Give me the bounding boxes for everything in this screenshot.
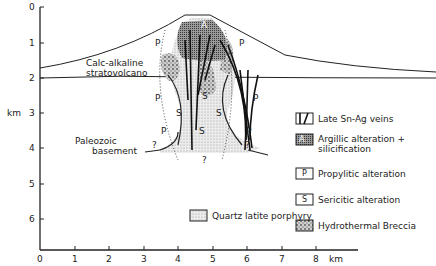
x-axis xyxy=(40,246,358,250)
y-axis-label: km xyxy=(7,108,21,118)
x-tick-4: 4 xyxy=(175,254,181,264)
x-tick-3: 3 xyxy=(141,254,147,264)
y-axis xyxy=(40,7,44,250)
propylitic-symbol: P xyxy=(239,38,244,48)
y-tick-1: 1 xyxy=(29,38,35,48)
x-tick-2: 2 xyxy=(106,254,112,264)
propylitic-symbol: P xyxy=(155,93,160,103)
sericitic-symbol: S xyxy=(216,108,222,118)
legend-propylitic-symbol: P xyxy=(302,169,307,179)
x-tick-1: 1 xyxy=(72,254,78,264)
legend-argillic-label-2: silicification xyxy=(318,144,371,154)
x-tick-7: 7 xyxy=(279,254,285,264)
legend-sericitic-label: Sericitic alteration xyxy=(318,195,400,205)
propylitic-symbol: P xyxy=(253,93,258,103)
x-tick-5: 5 xyxy=(210,254,216,264)
stratovolcano-label-1: Calc-alkaline xyxy=(86,58,143,68)
uncertain-mark: ? xyxy=(152,140,157,150)
argillic-symbol: A xyxy=(201,20,207,30)
uncertain-mark: ? xyxy=(245,140,250,150)
y-tick-6: 6 xyxy=(29,214,35,224)
propylitic-symbol: P xyxy=(246,126,251,136)
x-tick-0: 0 xyxy=(37,254,43,264)
sericitic-symbol: S xyxy=(199,126,205,136)
stratovolcano-label-2: stratovolcano xyxy=(86,68,147,78)
y-tick-2: 2 xyxy=(29,73,35,83)
legend-argillic-symbol: A xyxy=(299,135,304,145)
legend-sericitic-symbol: S xyxy=(302,195,307,205)
y-tick-3: 3 xyxy=(29,108,35,118)
legend-propylitic-label: Propylitic alteration xyxy=(318,169,406,179)
y-tick-0: 0 xyxy=(29,2,35,12)
propylitic-symbol: P xyxy=(161,126,166,136)
x-tick-8: 8 xyxy=(313,254,319,264)
x-axis-unit: km xyxy=(329,254,343,264)
legend-breccia-label: Hydrothermal Breccia xyxy=(318,221,416,231)
legend-porphyry-label: Quartz latite porphyry xyxy=(212,211,312,221)
y-tick-4: 4 xyxy=(29,143,35,153)
x-tick-6: 6 xyxy=(244,254,250,264)
sericitic-symbol: S xyxy=(202,91,208,101)
y-tick-5: 5 xyxy=(29,179,35,189)
uncertain-mark: ? xyxy=(202,155,207,165)
legend-veins-label: Late Sn-Ag veins xyxy=(318,114,393,124)
sericitic-symbol: S xyxy=(176,108,182,118)
propylitic-symbol: P xyxy=(155,38,160,48)
legend-argillic-label-1: Argillic alteration + xyxy=(318,134,405,144)
basement-label-1: Paleozoic xyxy=(75,136,117,146)
basement-label-2: basement xyxy=(92,146,137,156)
